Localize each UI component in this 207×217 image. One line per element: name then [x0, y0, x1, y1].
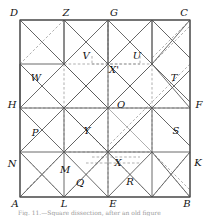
vertex-label-N: N — [8, 159, 17, 169]
diagram-line — [152, 20, 190, 58]
vertex-label-O: O — [117, 100, 125, 110]
vertex-label-Z: Z — [63, 8, 70, 18]
figure-caption: Fig. 11.—Square dissection, after an old… — [18, 209, 198, 216]
diagram-line — [152, 108, 190, 146]
vertex-label-C: C — [180, 8, 188, 18]
vertex-label-M: M — [60, 165, 70, 175]
vertex-label-A: A — [11, 199, 18, 209]
diagram-line — [152, 20, 190, 64]
dissection-diagram — [0, 0, 207, 217]
vertex-label-F: F — [196, 100, 203, 110]
vertex-label-H: H — [8, 100, 17, 110]
vertex-label-K: K — [194, 158, 201, 168]
vertex-label-S: S — [173, 126, 180, 136]
vertex-label-Y: Y — [84, 126, 91, 136]
vertex-label-U: U — [133, 51, 141, 61]
vertex-label-E: E — [109, 199, 116, 209]
vertex-label-L: L — [61, 199, 68, 209]
vertex-label-G: G — [110, 8, 118, 18]
diagram-line — [152, 64, 190, 102]
vertex-label-Q: Q — [76, 178, 84, 188]
figure-page: DZGCVUX'WTHOFPYSNMXKQRALEB Fig. 11.—Squa… — [0, 0, 207, 217]
solid-lines-group — [20, 20, 190, 197]
vertex-label-B: B — [183, 199, 190, 209]
vertex-label-W: W — [31, 73, 41, 83]
vertex-label-R: R — [126, 177, 134, 187]
diagram-line — [152, 64, 190, 108]
vertex-label-X: X — [114, 158, 121, 168]
vertex-label-T: T — [171, 73, 178, 83]
vertex-label-V: V — [82, 51, 89, 61]
vertex-label-Xp: X' — [109, 65, 119, 75]
vertex-label-D: D — [10, 8, 18, 18]
vertex-label-P: P — [32, 128, 39, 138]
